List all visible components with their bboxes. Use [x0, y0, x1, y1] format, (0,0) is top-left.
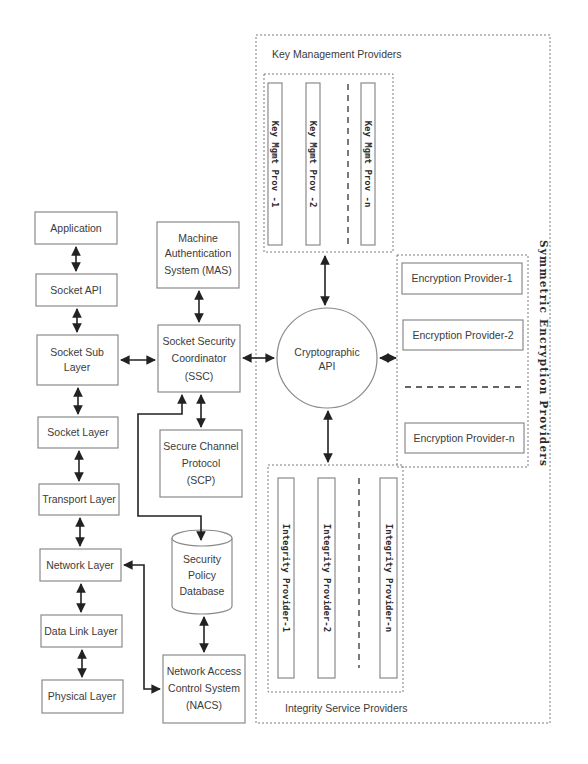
svg-text:Integrity Provider-n: Integrity Provider-n [384, 524, 394, 632]
svg-text:Socket API: Socket API [50, 284, 101, 296]
encryption-provider-2: Encryption Provider-2 [403, 320, 523, 350]
integrity-provider-2: Integrity Provider-2 [318, 478, 335, 678]
svg-text:(SCP): (SCP) [187, 474, 216, 486]
svg-text:Integrity Provider-1: Integrity Provider-1 [281, 524, 291, 632]
svg-text:(SSC): (SSC) [185, 370, 214, 382]
svg-text:Encryption Provider-1: Encryption Provider-1 [412, 272, 513, 284]
application-box: Application [35, 212, 117, 244]
svg-text:Key Mgmt Prov -2: Key Mgmt Prov -2 [308, 121, 318, 208]
encryption-provider-n: Encryption Provider-n [405, 423, 524, 453]
nacs-box: Network Access Control System (NACS) [163, 655, 245, 723]
key-mgmt-provider-1: Key Mgmt Prov -1 [268, 83, 282, 245]
svg-text:Machine: Machine [178, 232, 218, 244]
svg-text:Socket Security: Socket Security [163, 335, 237, 347]
key-mgmt-provider-2: Key Mgmt Prov -2 [306, 83, 320, 245]
svg-text:Control System: Control System [168, 682, 240, 694]
svg-text:(NACS): (NACS) [186, 699, 222, 711]
svg-text:Coordinator: Coordinator [172, 352, 227, 364]
data-link-layer-box: Data Link Layer [41, 615, 122, 647]
svg-text:Security: Security [183, 553, 222, 565]
socket-api-box: Socket API [36, 274, 117, 306]
cryptographic-api-node: Cryptographic API [277, 308, 377, 408]
key-mgmt-provider-n: Key Mgmt Prov -n [361, 83, 375, 245]
network-layer-box: Network Layer [40, 549, 121, 581]
svg-text:Transport Layer: Transport Layer [42, 493, 116, 505]
svg-text:Cryptographic: Cryptographic [294, 346, 359, 358]
svg-text:Database: Database [180, 585, 225, 597]
ssc-box: Socket Security Coordinator (SSC) [158, 325, 240, 392]
transport-layer-box: Transport Layer [39, 484, 119, 515]
integrity-provider-n: Integrity Provider-n [380, 478, 397, 678]
integrity-title: Integrity Service Providers [285, 702, 408, 714]
arrow-network-nacs [124, 565, 160, 689]
encryption-provider-1: Encryption Provider-1 [402, 263, 522, 294]
svg-text:Data Link Layer: Data Link Layer [44, 625, 118, 637]
symmetric-encryption-title: Symmetric Encryption Providers [538, 240, 550, 467]
svg-text:Key Mgmt Prov -n: Key Mgmt Prov -n [363, 121, 373, 208]
svg-text:Authentication: Authentication [165, 247, 232, 259]
svg-text:Network Layer: Network Layer [46, 559, 114, 571]
svg-text:Socket Layer: Socket Layer [47, 426, 109, 438]
svg-text:Secure Channel: Secure Channel [163, 440, 238, 452]
integrity-provider-1: Integrity Provider-1 [278, 478, 294, 678]
mas-box: Machine Authentication System (MAS) [157, 222, 239, 288]
svg-text:Encryption Provider-n: Encryption Provider-n [414, 432, 515, 444]
svg-text:API: API [319, 360, 336, 372]
svg-text:Layer: Layer [64, 361, 91, 373]
svg-text:Socket Sub: Socket Sub [50, 346, 104, 358]
physical-layer-box: Physical Layer [42, 680, 123, 713]
svg-text:System (MAS): System (MAS) [164, 264, 232, 276]
svg-text:Network Access: Network Access [167, 665, 242, 677]
svg-text:Key Mgmt Prov -1: Key Mgmt Prov -1 [270, 121, 280, 208]
svg-text:Policy: Policy [188, 569, 217, 581]
scp-box: Secure Channel Protocol (SCP) [160, 430, 242, 497]
svg-text:Integrity Provider-2: Integrity Provider-2 [322, 524, 332, 632]
svg-text:Application: Application [50, 222, 102, 234]
svg-text:Encryption Provider-2: Encryption Provider-2 [413, 329, 514, 341]
socket-sub-layer-box: Socket Sub Layer [37, 335, 118, 385]
socket-layer-box: Socket Layer [38, 417, 118, 448]
svg-text:Physical Layer: Physical Layer [48, 690, 117, 702]
svg-text:Protocol: Protocol [182, 457, 221, 469]
security-policy-database-cylinder: Security Policy Database [172, 530, 232, 614]
security-architecture-diagram: Key Management Providers Key Mgmt Prov -… [0, 0, 588, 764]
key-management-title: Key Management Providers [272, 48, 402, 60]
